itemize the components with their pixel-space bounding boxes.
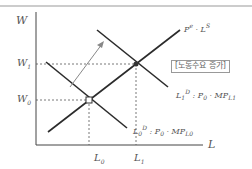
l1-tick-label: L1 — [134, 153, 144, 165]
x-axis-label: L — [208, 139, 215, 150]
demand-curve-1 — [97, 30, 168, 87]
shift-arrow — [70, 44, 102, 87]
supply-curve-label: Pe · LS — [184, 23, 210, 34]
w1-tick-label: W1 — [17, 58, 31, 70]
l0-tick-label: L0 — [94, 153, 104, 165]
w0-tick-label: W0 — [17, 94, 31, 106]
demand-curve-1-label: L1D : P0 · MPL1 — [176, 89, 236, 101]
equilibrium-1-marker — [134, 62, 139, 67]
y-axis-label: W — [16, 15, 27, 26]
demand-curve-0 — [46, 62, 127, 128]
arrow-head-icon — [97, 41, 104, 48]
demand-curve-0-label: L0D : P0 · MPL0 — [133, 125, 193, 137]
equilibrium-0-marker — [86, 97, 92, 103]
demand-increase-annotation: [노동수요 증가] — [171, 60, 230, 73]
